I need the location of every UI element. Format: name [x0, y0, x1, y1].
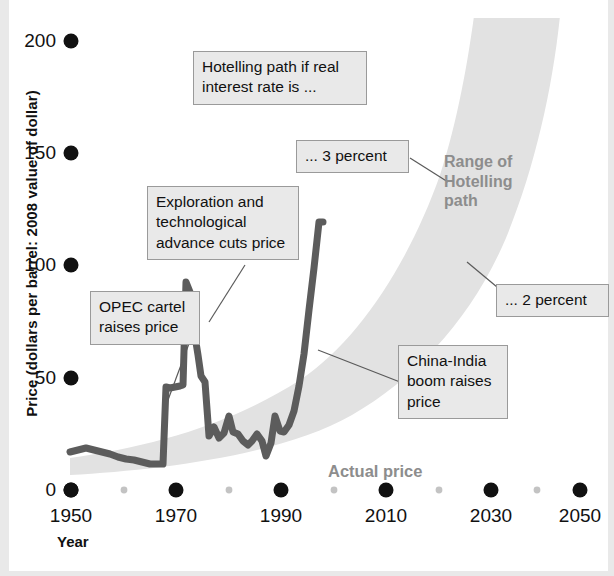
x-axis-title: Year [57, 533, 89, 550]
band-label-range-of-hotelling-path: Range of Hotelling path [444, 152, 512, 211]
y-tick-label-0: 0 [10, 479, 56, 501]
chart-page: Price (dollars per barrel: 2008 value of… [0, 0, 614, 576]
y-tick-label-100: 100 [10, 254, 56, 276]
x-tick-label-2050: 2050 [550, 505, 610, 527]
y-axis-tick-dots [64, 34, 79, 498]
x-tick-label-1950: 1950 [41, 505, 101, 527]
callout-two-percent: ... 2 percent [496, 284, 609, 317]
x-tick-label-1970: 1970 [146, 505, 206, 527]
y-tick-label-200: 200 [10, 30, 56, 52]
x-axis-tick-dots [64, 483, 588, 498]
callout-china-india: China-India boom raises price [398, 345, 508, 419]
x-tick-label-2030: 2030 [461, 505, 521, 527]
callout-opec: OPEC cartel raises price [90, 291, 200, 345]
x-axis-minor-tick-dots [121, 487, 541, 494]
x-tick-label-1990: 1990 [251, 505, 311, 527]
x-tick-label-2010: 2010 [356, 505, 416, 527]
series-label-actual-price: Actual price [328, 461, 422, 481]
callout-exploration: Exploration and technological advance cu… [147, 186, 299, 260]
callout-hotelling-header: Hotelling path if real interest rate is … [193, 51, 367, 105]
y-tick-label-50: 50 [10, 367, 56, 389]
callout-three-percent: ... 3 percent [296, 140, 409, 173]
y-tick-label-150: 150 [10, 142, 56, 164]
